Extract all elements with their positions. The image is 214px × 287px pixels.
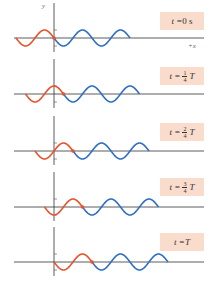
time-label-4: t = T [160,233,204,251]
frac-num: 1 [182,70,187,77]
period-symbol: T [189,182,194,192]
time-value: T [185,237,190,247]
time-label-1: t = 14 T [160,67,204,85]
frac-den: 4 [183,77,186,83]
time-prefix: t = [170,182,181,192]
period-symbol: T [189,71,194,81]
wave-front-marker [81,205,85,209]
period-symbol: T [189,127,194,137]
frac-num: 2 [182,126,187,133]
wave-front-marker [62,92,66,96]
time-prefix: t = [171,16,182,26]
x-axis-label: +x [188,42,196,50]
time-prefix: t = [174,237,185,247]
wave-front-marker [71,149,75,153]
frac-num: 3 [182,181,187,188]
frac-den: 4 [183,188,186,194]
y-axis-label: y [42,2,45,10]
fraction: 14 [182,70,187,83]
time-label-2: t = 24 T [160,123,204,141]
time-label-0: t = 0 s [160,12,204,30]
frac-den: 4 [183,133,186,139]
wave-front-marker [90,260,94,264]
wave-front-marker [52,36,56,40]
fraction: 34 [182,181,187,194]
time-prefix: t = [170,71,181,81]
time-label-3: t = 34 T [160,178,204,196]
time-value: 0 s [182,16,192,26]
time-prefix: t = [170,127,181,137]
fraction: 24 [182,126,187,139]
